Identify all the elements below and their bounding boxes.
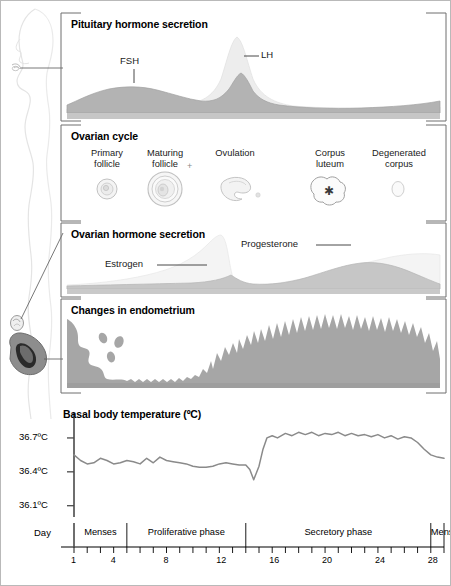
panel-title-endometrium: Changes in endometrium [71, 304, 195, 316]
degenerated-corpus-icon [392, 182, 404, 197]
basal-layer [67, 383, 440, 388]
y-tick-group [67, 438, 74, 506]
panel-basal-body-temperature: Basal body temperature (ºC) 36.7ºC36.4ºC… [1, 399, 451, 586]
day-tick-label: 20 [322, 555, 332, 565]
shed-tissue-fragment [106, 351, 117, 364]
stage-line1: Corpus [299, 148, 361, 159]
temperature-line [74, 432, 444, 479]
uterus [10, 333, 47, 375]
stage-line1: Degenerated [360, 148, 438, 159]
endometrium-lining [67, 314, 440, 387]
day-tick-group [74, 547, 444, 553]
y-tick-label: 36.4ºC [19, 465, 48, 476]
stage-line2: corpus [360, 159, 438, 170]
pituitary-gland [12, 64, 20, 71]
panel-bracket-right [426, 125, 446, 221]
stage-line2: follicle [135, 159, 195, 170]
fsh-curve [67, 73, 440, 113]
stage-label-corpus-luteum: Corpus luteum [299, 148, 361, 170]
lh-label: LH [261, 49, 273, 60]
svg-text:✱: ✱ [324, 184, 334, 198]
y-tick-label: 36.1ºC [19, 499, 48, 510]
day-tick-label: 1 [71, 555, 76, 565]
estrogen-label: Estrogen [105, 258, 143, 269]
phase-label: Menses [431, 527, 444, 537]
fsh-label: FSH [120, 55, 139, 66]
day-tick-label: 4 [111, 555, 116, 565]
day-axis-label: Day [34, 527, 51, 538]
panel-pituitary-hormone-secretion: Pituitary hormone secretion LH FSH [61, 13, 446, 121]
cycle-figure: Pituitary hormone secretion LH FSH + [0, 0, 451, 586]
shed-tissue-fragment [97, 331, 109, 344]
stage-label-primary-follicle: Primary follicle [77, 148, 137, 170]
panel-title-pituitary: Pituitary hormone secretion [71, 18, 208, 30]
stage-label-maturing-follicle: Maturing follicle [135, 148, 195, 170]
day-tick-label: 12 [216, 555, 226, 565]
leader-line-ovary [21, 233, 63, 319]
stage-label-ovulation: Ovulation [204, 148, 266, 159]
day-tick-label: 16 [269, 555, 279, 565]
phase-label: Menses [74, 527, 127, 537]
panel-title-ovarian-hormone: Ovarian hormone secretion [71, 228, 205, 240]
stage-line1: Ovulation [204, 148, 266, 159]
panel-title-temperature: Basal body temperature (ºC) [63, 408, 201, 420]
panel-title-ovarian-cycle: Ovarian cycle [71, 130, 138, 142]
panel-ovarian-hormone-secretion: Ovarian hormone secretion Estrogen Proge… [61, 223, 446, 297]
stage-line2: follicle [77, 159, 137, 170]
day-tick-label: 28 [428, 555, 438, 565]
phase-label: Proliferative phase [127, 527, 246, 537]
shed-tissue-fragment [113, 335, 126, 349]
phase-label: Secretory phase [246, 527, 431, 537]
stage-line2: luteum [299, 159, 361, 170]
primary-follicle-icon [97, 179, 117, 199]
stage-line1: Maturing [135, 148, 195, 159]
corpus-luteum-icon: ✱ [311, 177, 346, 205]
progesterone-label: Progesterone [241, 238, 298, 249]
panel-changes-in-endometrium: Changes in endometrium [61, 299, 446, 393]
ovulation-icon [221, 177, 260, 200]
baseline-strip [67, 289, 440, 294]
day-tick-label: 8 [164, 555, 169, 565]
panel-ovarian-cycle: + ✱ Ovarian cycle Primary follicle [61, 125, 446, 221]
stage-line1: Primary [77, 148, 137, 159]
stage-label-degenerated-corpus: Degenerated corpus [360, 148, 438, 170]
y-tick-label: 36.7ºC [19, 431, 48, 442]
baseline-strip [67, 113, 440, 119]
day-tick-label: 24 [375, 555, 385, 565]
